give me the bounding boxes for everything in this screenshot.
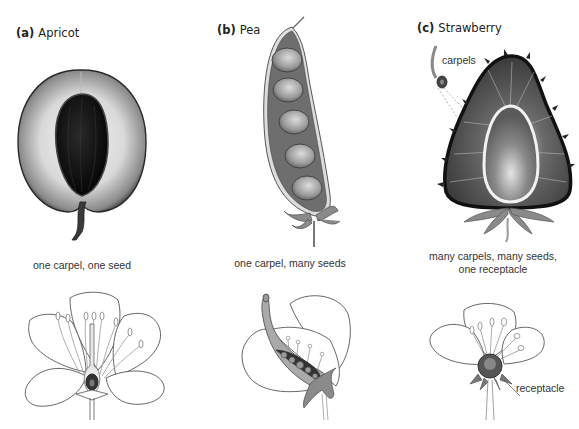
apricot-flower-illustration xyxy=(20,290,180,420)
panel-c-caption: many carpels, many seeds, one receptacle xyxy=(413,250,573,276)
panel-a-caption: one carpel, one seed xyxy=(22,259,142,272)
panel-a-name: Apricot xyxy=(38,26,79,40)
panel-c-caption-line2: one receptacle xyxy=(413,263,573,276)
apricot-fruit-illustration xyxy=(10,62,170,242)
pea-pod-illustration xyxy=(252,15,352,250)
panel-b-caption: one carpel, many seeds xyxy=(220,257,360,270)
strawberry-fruit-illustration xyxy=(428,42,578,242)
strawberry-flower-illustration xyxy=(428,300,548,420)
panel-b-letter: (b) xyxy=(217,23,236,37)
panel-c-letter: (c) xyxy=(417,21,434,35)
panel-c-name: Strawberry xyxy=(438,21,501,35)
pea-flower-illustration xyxy=(240,290,360,420)
receptacle-label: receptacle xyxy=(516,382,564,394)
panel-c-caption-line1: many carpels, many seeds, xyxy=(413,250,573,263)
panel-a-letter: (a) xyxy=(16,26,34,40)
panel-a-label: (a)Apricot xyxy=(16,26,79,40)
panel-c-label: (c)Strawberry xyxy=(417,21,502,35)
